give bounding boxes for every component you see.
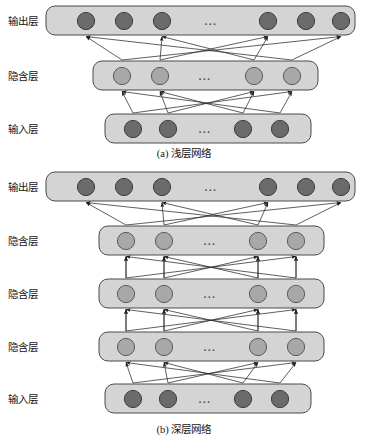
- edge-shallow-network-2-6: [280, 92, 292, 114]
- edge-shallow-network-2-7: [122, 92, 280, 114]
- neuron-b-hidden-1-0: [117, 338, 134, 355]
- edge-deep-network-4-3: [168, 363, 258, 384]
- edge-shallow-network-2-0: [122, 92, 133, 114]
- neuron-b-hidden-1-3: [287, 338, 304, 355]
- neuron-a-input-3: [271, 120, 288, 137]
- layer-label-deep-network-2: 隐含层: [8, 288, 39, 300]
- edge-deep-network-4-0: [126, 363, 133, 384]
- neuron-a-input-0: [124, 120, 141, 137]
- ellipsis-a-output: ...: [205, 15, 218, 27]
- neuron-b-hidden-2-3: [287, 285, 304, 302]
- edge-deep-network-1-6: [296, 203, 341, 226]
- neuron-b-input-0: [124, 390, 141, 407]
- neuron-a-output-4: [297, 12, 314, 29]
- neural-network-figure: .........输出层隐含层输入层(a) 浅层网络..............…: [0, 0, 368, 443]
- ellipsis-b-hidden-1: ...: [204, 341, 217, 353]
- diagram-canvas: .........输出层隐含层输入层(a) 浅层网络..............…: [0, 0, 368, 443]
- neuron-a-hidden-3: [283, 67, 300, 84]
- neuron-a-output-5: [332, 12, 349, 29]
- neuron-b-output-4: [297, 178, 314, 195]
- neuron-a-hidden-2: [245, 67, 262, 84]
- layer-label-deep-network-0: 输出层: [8, 181, 39, 193]
- neuron-a-output-1: [115, 12, 132, 29]
- ellipsis-b-input: ...: [199, 393, 212, 405]
- ellipsis-a-input: ...: [199, 123, 212, 135]
- layer-bars-group: [46, 6, 355, 413]
- ellipsis-b-output: ...: [205, 181, 218, 193]
- layer-label-shallow-network-2: 输入层: [8, 123, 39, 135]
- ellipsis-a-hidden: ...: [199, 70, 212, 82]
- edge-deep-network-4-6: [280, 363, 296, 384]
- neuron-b-output-2: [153, 178, 170, 195]
- neuron-a-input-2: [234, 120, 251, 137]
- edge-deep-network-1-3: [164, 203, 268, 226]
- neuron-a-output-0: [77, 12, 94, 29]
- neuron-b-hidden-3-1: [155, 232, 172, 249]
- edge-deep-network-1-1: [126, 203, 341, 226]
- edge-deep-network-1-2: [162, 203, 164, 226]
- edge-deep-network-1-5: [162, 203, 258, 226]
- edge-shallow-network-2-4: [243, 92, 254, 114]
- caption-shallow-network: (a) 浅层网络: [157, 147, 212, 160]
- neuron-a-output-3: [259, 12, 276, 29]
- caption-deep-network: (b) 深层网络: [157, 423, 213, 436]
- neuron-b-hidden-2-2: [249, 285, 266, 302]
- edge-deep-network-4-7: [126, 363, 280, 384]
- ellipsis-b-hidden-3: ...: [204, 235, 217, 247]
- neuron-b-output-3: [259, 178, 276, 195]
- ellipsis-b-hidden-2: ...: [204, 288, 217, 300]
- neuron-b-output-0: [77, 178, 94, 195]
- layer-label-deep-network-4: 输入层: [8, 393, 39, 405]
- edge-shallow-network-2-3: [168, 92, 254, 114]
- edge-shallow-network-1-2: [160, 37, 162, 61]
- neuron-b-hidden-1-1: [155, 338, 172, 355]
- neuron-b-hidden-3-0: [117, 232, 134, 249]
- layer-label-deep-network-1: 隐含层: [8, 235, 39, 247]
- neuron-b-hidden-2-0: [117, 285, 134, 302]
- edge-shallow-network-2-2: [160, 92, 168, 114]
- neuron-b-input-3: [271, 390, 288, 407]
- edge-deep-network-1-7: [86, 203, 296, 226]
- neuron-b-hidden-1-2: [249, 338, 266, 355]
- neuron-b-output-1: [115, 178, 132, 195]
- neuron-b-output-5: [332, 178, 349, 195]
- edge-shallow-network-1-1: [122, 37, 341, 61]
- neuron-b-hidden-3-3: [287, 232, 304, 249]
- layer-label-deep-network-3: 隐含层: [8, 341, 39, 353]
- neuron-a-output-2: [153, 12, 170, 29]
- edge-deep-network-4-2: [164, 363, 168, 384]
- neuron-a-hidden-1: [151, 67, 168, 84]
- neuron-a-hidden-0: [113, 67, 130, 84]
- edge-shallow-network-1-6: [292, 37, 341, 61]
- neuron-b-input-1: [159, 390, 176, 407]
- neuron-b-hidden-2-1: [155, 285, 172, 302]
- layer-label-shallow-network-0: 输出层: [8, 15, 39, 27]
- layer-label-shallow-network-1: 隐含层: [8, 70, 39, 82]
- neuron-b-hidden-3-2: [249, 232, 266, 249]
- neuron-b-input-2: [234, 390, 251, 407]
- neuron-a-input-1: [159, 120, 176, 137]
